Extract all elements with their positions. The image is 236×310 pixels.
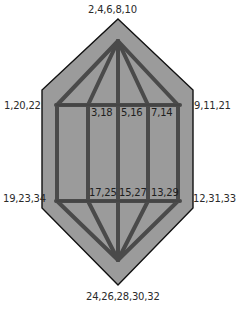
label-inner-bottom-2: 15,27 xyxy=(119,187,147,199)
polyhedron-diagram xyxy=(0,0,236,310)
label-inner-top-1: 3,18 xyxy=(91,107,112,119)
label-bottom-vertex: 24,26,28,30,32 xyxy=(86,291,160,303)
label-inner-top-2: 5,16 xyxy=(121,107,142,119)
label-inner-bottom-1: 17,25 xyxy=(89,187,117,199)
label-lower-right-vertex: 12,31,33 xyxy=(193,193,236,205)
label-top-vertex: 2,4,6,8,10 xyxy=(88,4,137,16)
label-upper-left-vertex: 1,20,22 xyxy=(4,100,41,112)
label-lower-left-vertex: 19,23,34 xyxy=(3,193,46,205)
label-inner-bottom-3: 13,29 xyxy=(151,187,179,199)
label-inner-top-3: 7,14 xyxy=(151,107,172,119)
label-upper-right-vertex: 9,11,21 xyxy=(194,100,231,112)
